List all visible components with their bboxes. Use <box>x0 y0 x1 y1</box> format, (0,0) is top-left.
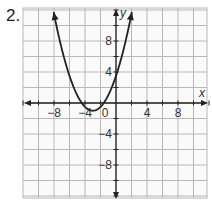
x-tick-label: −8 <box>47 106 61 120</box>
y-tick-label: −4 <box>98 127 112 141</box>
y-axis-label: y <box>119 6 127 20</box>
y-tick-label: 8 <box>105 34 112 48</box>
coordinate-graph: −8−404884−4−8 x y <box>0 0 212 203</box>
x-axis-label: x <box>198 86 206 100</box>
x-tick-label: 8 <box>175 106 182 120</box>
y-tick-label: 4 <box>105 65 112 79</box>
x-tick-label: 4 <box>144 106 151 120</box>
y-tick-label: −8 <box>98 158 112 172</box>
x-tick-label: 0 <box>102 106 109 120</box>
